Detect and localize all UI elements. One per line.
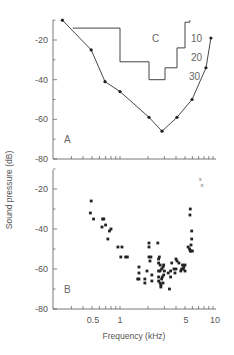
scatter-point <box>162 264 165 267</box>
y-axis-title: Sound pressure (dB) <box>4 151 14 230</box>
label-30: 30 <box>189 71 201 82</box>
scatter-point <box>189 214 192 217</box>
panel-b-ytick-label: -40 <box>35 224 48 234</box>
scatter-point <box>191 250 194 253</box>
scatter-point <box>138 272 141 275</box>
panel-a-ytick-label: -40 <box>35 75 48 85</box>
xtick-label-5: 5 <box>183 315 188 325</box>
panel-a-label: A <box>64 134 71 145</box>
scatter-point <box>104 224 107 227</box>
panel-a-x-ticks <box>71 156 213 159</box>
audiogram-point <box>175 116 178 119</box>
audiogram-point <box>90 48 93 51</box>
audiogram-point <box>61 19 64 22</box>
audiogram-point <box>147 116 150 119</box>
scatter-point <box>174 272 177 275</box>
scatter-point <box>143 282 146 285</box>
scatter-point <box>90 200 93 203</box>
scatter-point <box>156 242 159 245</box>
x-mark: x <box>200 182 203 188</box>
scatter-point <box>149 260 152 263</box>
scatter-point <box>117 246 120 249</box>
panel-b-ytick-label: -60 <box>35 264 48 274</box>
scatter-point <box>148 242 151 245</box>
xtick-label-1: 1 <box>117 315 122 325</box>
panel-a-y-ticks <box>53 20 57 159</box>
scatter-point <box>138 266 141 269</box>
xtick-label-10: 10 <box>210 315 220 325</box>
scatter-point <box>189 208 192 211</box>
scatter-point <box>150 274 153 277</box>
scatter-point <box>169 270 172 273</box>
label-c: C <box>152 33 159 44</box>
scatter-point <box>148 246 151 249</box>
scatter-point <box>178 262 181 265</box>
label-20: 20 <box>191 52 203 63</box>
scatter-point <box>184 264 187 267</box>
audiogram-point <box>209 36 212 39</box>
scatter-point <box>162 274 165 277</box>
audiogram-point <box>190 98 193 101</box>
scatter-point <box>119 256 122 259</box>
scatter-point <box>190 230 193 233</box>
audiogram-point <box>160 130 163 133</box>
scatter-point <box>157 276 160 279</box>
scatter-point <box>158 256 161 259</box>
scatter-point <box>190 244 193 247</box>
scatter-point <box>170 262 173 265</box>
scatter-point <box>138 278 141 281</box>
scatter-point <box>175 268 178 271</box>
scatter-point <box>143 278 146 281</box>
scatter-point <box>190 238 193 241</box>
audiogram-figure: Sound pressure (dB) -20 -40 -60 -80 C 10… <box>0 0 234 355</box>
audiogram-point <box>103 80 106 83</box>
scatter-point <box>126 256 129 259</box>
scatter-point <box>162 282 165 285</box>
scatter-point <box>150 280 153 283</box>
audiogram-point <box>204 66 207 69</box>
panel-a-ytick-label: -80 <box>35 154 48 164</box>
scatter-point <box>163 270 166 273</box>
panel-a: -20 -40 -60 -80 C 10 20 30 A <box>35 19 216 164</box>
scatter-point <box>121 246 124 249</box>
scatter-point <box>92 218 95 221</box>
panel-b: -20 -40 -60 -80 0.5 1 5 10 xx B Frequenc… <box>35 169 220 341</box>
scatter-point <box>101 226 104 229</box>
panel-b-label: B <box>64 284 71 295</box>
label-10: 10 <box>191 33 203 44</box>
panel-b-y-ticks <box>53 169 57 309</box>
x-axis-title: Frequency (kHz) <box>103 331 166 341</box>
scatter-points <box>89 200 194 291</box>
audiogram-point <box>118 90 121 93</box>
scatter-point <box>102 218 105 221</box>
scatter-point <box>106 238 109 241</box>
scatter-point <box>89 212 92 215</box>
scatter-point <box>168 288 171 291</box>
scatter-point <box>159 264 162 267</box>
xtick-label-0.5: 0.5 <box>87 315 100 325</box>
scatter-point <box>169 276 172 279</box>
panel-b-x-ticks <box>71 306 213 309</box>
scatter-point <box>184 270 187 273</box>
panel-a-ytick-label: -20 <box>35 35 48 45</box>
scatter-point <box>150 256 153 259</box>
panel-a-ytick-label: -60 <box>35 114 48 124</box>
scatter-point <box>159 286 162 289</box>
scatter-point <box>146 270 149 273</box>
scatter-point <box>110 228 113 231</box>
panel-b-ytick-label: -20 <box>35 184 48 194</box>
panel-b-ytick-label: -80 <box>35 304 48 314</box>
out-of-range-x-marks: xx <box>199 176 204 188</box>
